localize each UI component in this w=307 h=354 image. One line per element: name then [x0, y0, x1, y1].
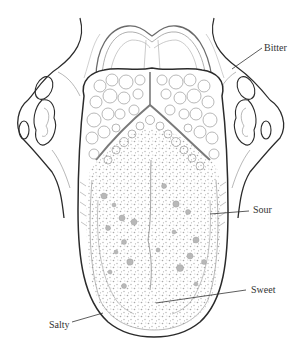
- label-sweet: Sweet: [251, 285, 275, 295]
- tongue-body: [78, 68, 228, 337]
- left-tonsil: [18, 72, 80, 218]
- bitter-leader-line: [232, 48, 262, 69]
- label-bitter: Bitter: [264, 43, 287, 53]
- label-sour: Sour: [253, 205, 272, 215]
- salty-leader-line: [72, 313, 103, 322]
- label-salty: Salty: [49, 320, 70, 330]
- tongue-diagram: [0, 0, 307, 354]
